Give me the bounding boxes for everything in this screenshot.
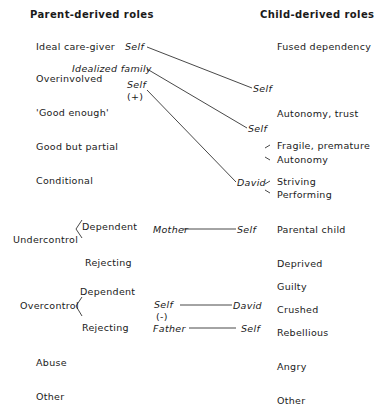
undercontrol-dependent: Dependent <box>82 222 137 232</box>
overcontrol-rejecting: Rejecting <box>82 323 129 333</box>
link-target-self-1: Self <box>253 84 272 94</box>
link-label-minus-sign: (-) <box>156 312 168 322</box>
child-role-deprived: Deprived <box>277 259 323 269</box>
link-label-plus-sign: (+) <box>127 92 143 102</box>
child-role-striving: Striving <box>277 177 316 187</box>
overcontrol-dependent: Dependent <box>80 287 135 297</box>
parent-role-conditional: Conditional <box>36 176 93 186</box>
child-role-fused-dependency: Fused dependency <box>277 42 371 52</box>
fragile-autonomy-bracket <box>265 145 270 160</box>
parent-role-abuse: Abuse <box>36 358 67 368</box>
child-role-crushed: Crushed <box>277 305 319 315</box>
link-label-idealized-family: Idealized family <box>72 64 152 74</box>
parent-role-other: Other <box>36 392 64 402</box>
link-self-plus-to-david <box>147 90 236 182</box>
parent-role-good-but-partial: Good but partial <box>36 142 118 152</box>
link-label-self-plus: Self <box>127 80 146 90</box>
link-target-david-2: David <box>233 301 262 311</box>
link-label-father: Father <box>153 324 186 334</box>
parent-role-undercontrol: Undercontrol <box>13 235 78 245</box>
child-role-guilty: Guilty <box>277 282 307 292</box>
child-role-angry: Angry <box>277 362 307 372</box>
child-role-other: Other <box>277 396 305 406</box>
parent-roles-header: Parent-derived roles <box>30 10 154 20</box>
child-role-rebellious: Rebellious <box>277 328 329 338</box>
link-target-self-4: Self <box>241 324 260 334</box>
child-roles-header: Child-derived roles <box>260 10 374 20</box>
link-label-self-minus: Self <box>154 300 173 310</box>
parent-role-overcontrol: Overcontrol <box>20 301 79 311</box>
parent-role-overinvolved: Overinvolved <box>36 74 103 84</box>
child-role-autonomy-trust: Autonomy, trust <box>277 109 359 119</box>
child-role-autonomy: Autonomy <box>277 155 328 165</box>
link-target-david-1: David <box>237 178 266 188</box>
link-label-self-1: Self <box>125 42 144 52</box>
link-label-mother: Mother <box>153 225 188 235</box>
child-role-parental-child: Parental child <box>277 225 346 235</box>
link-idealized-family-to-self <box>147 69 247 128</box>
child-role-fragile-premature: Fragile, premature <box>277 141 370 151</box>
child-role-performing: Performing <box>277 190 332 200</box>
link-target-self-2: Self <box>248 124 267 134</box>
link-self-to-self-1 <box>147 47 252 88</box>
parent-role-good-enough: 'Good enough' <box>36 108 109 118</box>
parent-role-ideal-care-giver: Ideal care-giver <box>36 42 115 52</box>
link-target-self-3: Self <box>237 225 256 235</box>
undercontrol-rejecting: Rejecting <box>85 258 132 268</box>
